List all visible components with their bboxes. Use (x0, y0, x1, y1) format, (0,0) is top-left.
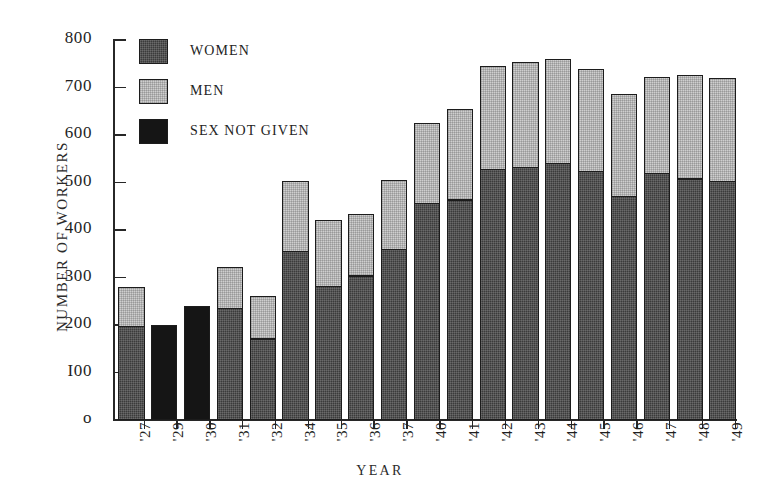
y-axis-tick-label: o (18, 408, 92, 428)
bar-segment-men (612, 94, 636, 198)
legend-item: MEN (139, 78, 224, 104)
bar (118, 287, 144, 420)
bar (677, 75, 703, 420)
bar-segment-women (481, 170, 505, 419)
bar (578, 69, 604, 421)
bar-segment-women (415, 204, 439, 419)
bar (348, 214, 374, 420)
bar (512, 62, 538, 420)
bar-segment-divider (579, 171, 603, 172)
bar-segment-women (678, 180, 702, 419)
bar-segment-men (513, 62, 537, 168)
y-axis-tick-label: 500 (18, 171, 92, 191)
bar (709, 78, 735, 420)
bar-segment-women (513, 168, 537, 419)
bar-segment-men (218, 267, 242, 309)
bar (381, 180, 407, 420)
bar-chart: NUMBER OF WORKERS oI00200300400500600700… (0, 0, 760, 501)
legend-item-label: WOMEN (190, 43, 250, 59)
bar (217, 267, 243, 420)
bar-segment-women (645, 174, 669, 419)
bar-segment-divider (349, 275, 373, 276)
bar-segment-women (579, 172, 603, 419)
bar (282, 181, 308, 420)
bar-segment-men (579, 69, 603, 173)
legend-item-label: SEX NOT GIVEN (190, 123, 310, 139)
bar (545, 59, 571, 420)
bar-segment-divider (481, 169, 505, 170)
bar-segment-divider (218, 308, 242, 309)
bar-segment-men (481, 66, 505, 170)
bar-segment-women (546, 164, 570, 419)
y-axis-tick-label: 800 (18, 28, 92, 48)
bar-segment-divider (382, 249, 406, 250)
bar-segment-divider (546, 163, 570, 164)
bar-segment-divider (415, 203, 439, 204)
bar (315, 220, 341, 420)
y-axis-tick-label: I00 (18, 361, 92, 381)
y-axis-tick-label: 700 (18, 76, 92, 96)
legend-item: SEX NOT GIVEN (139, 118, 310, 144)
bar-segment-men (251, 296, 275, 340)
bar-segment-women (316, 287, 340, 419)
bar (447, 109, 473, 420)
bar-segment-women (710, 182, 734, 419)
women-swatch (139, 39, 168, 64)
bar-segment-divider (513, 167, 537, 168)
bar-segment-divider (710, 181, 734, 182)
bar-segment-women (283, 252, 307, 419)
bar-segment-divider (612, 196, 636, 197)
legend-item-label: MEN (190, 83, 224, 99)
bar-segment-women (119, 327, 143, 419)
x-axis-title: YEAR (0, 463, 760, 479)
bar (611, 94, 637, 420)
bar (250, 296, 276, 420)
bar (480, 66, 506, 420)
bar (644, 77, 670, 420)
bar-segment-sex-not-given (152, 325, 176, 419)
bar-segment-men (645, 77, 669, 174)
y-axis-tick-label: 300 (18, 266, 92, 286)
bar-segment-divider (316, 286, 340, 287)
bar-segment-women (448, 201, 472, 420)
bar-segment-men (448, 109, 472, 200)
bar-segment-women (612, 197, 636, 419)
bar-segment-women (251, 340, 275, 419)
bar-segment-men (283, 181, 307, 252)
bar (184, 306, 210, 420)
bar-segment-women (349, 277, 373, 420)
bar-segment-women (382, 250, 406, 419)
bar-segment-divider (678, 178, 702, 179)
bar-segment-men (710, 78, 734, 182)
bar-segment-divider (251, 338, 275, 339)
legend-item: WOMEN (139, 38, 250, 64)
sex-not-given-swatch (139, 119, 168, 144)
bar-segment-men (316, 220, 340, 288)
y-axis-tick-label: 400 (18, 218, 92, 238)
bar (151, 325, 177, 420)
bar-segment-divider (283, 251, 307, 252)
bar-segment-men (415, 123, 439, 205)
bar-segment-men (349, 214, 373, 276)
bar-segment-men (119, 287, 143, 327)
bar-segment-divider (448, 199, 472, 200)
bar (414, 123, 440, 420)
y-axis-tick-label: 600 (18, 123, 92, 143)
bar-segment-women (218, 309, 242, 419)
bar-segment-sex-not-given (185, 306, 209, 419)
bar-segment-men (382, 180, 406, 250)
bar-segment-men (546, 59, 570, 164)
bar-segment-divider (645, 173, 669, 174)
men-swatch (139, 79, 168, 104)
bar-segment-divider (119, 326, 143, 327)
bar-segment-men (678, 75, 702, 179)
y-axis-tick-label: 200 (18, 313, 92, 333)
